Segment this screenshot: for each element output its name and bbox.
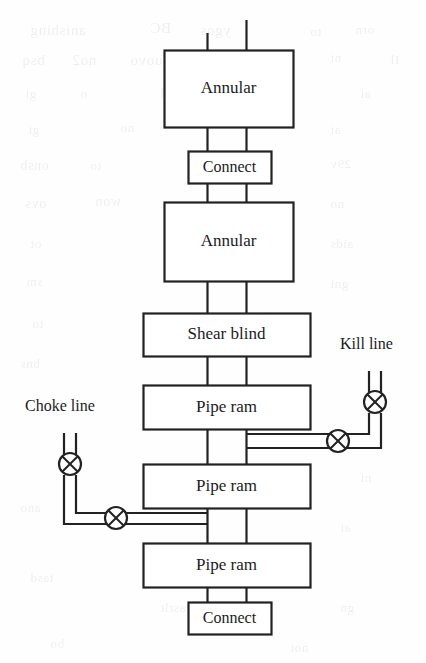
valve-kill-valve-vertical bbox=[364, 391, 386, 413]
stack-box-label: Annular bbox=[201, 231, 257, 250]
valve-kill-valve-horizontal bbox=[327, 430, 349, 452]
stack-box-pipe-ram-3: Pipe ram bbox=[144, 544, 311, 588]
diagram-page: anishingBCygostoornbsqno2bouovoniIlgiogi… bbox=[0, 0, 426, 663]
bop-stack-diagram: AnnularConnectAnnularShear blindPipe ram… bbox=[0, 0, 426, 663]
stack-box-label: Annular bbox=[201, 78, 257, 97]
stack-box-label: Shear blind bbox=[188, 324, 266, 343]
stack-box-pipe-ram-2: Pipe ram bbox=[144, 465, 311, 509]
valve-choke-valve-horizontal bbox=[105, 507, 127, 529]
stack-box-pipe-ram-1: Pipe ram bbox=[144, 386, 311, 430]
kill-line-label: Kill line bbox=[340, 335, 393, 352]
stack-box-label: Pipe ram bbox=[196, 476, 257, 495]
stack-box-annular-top: Annular bbox=[165, 51, 294, 128]
stack-box-connect-top: Connect bbox=[189, 152, 272, 184]
stack-box-annular-lower: Annular bbox=[165, 203, 294, 282]
bop-stack-boxes: AnnularConnectAnnularShear blindPipe ram… bbox=[144, 51, 311, 635]
stack-box-shear-blind: Shear blind bbox=[144, 314, 311, 357]
choke-line-label: Choke line bbox=[25, 397, 95, 414]
stack-box-label: Pipe ram bbox=[196, 397, 257, 416]
stack-box-connect-bottom: Connect bbox=[189, 603, 272, 635]
stack-box-label: Pipe ram bbox=[196, 555, 257, 574]
stack-box-label: Connect bbox=[203, 609, 257, 626]
valve-choke-valve-vertical bbox=[59, 453, 81, 475]
stack-box-label: Connect bbox=[203, 158, 257, 175]
